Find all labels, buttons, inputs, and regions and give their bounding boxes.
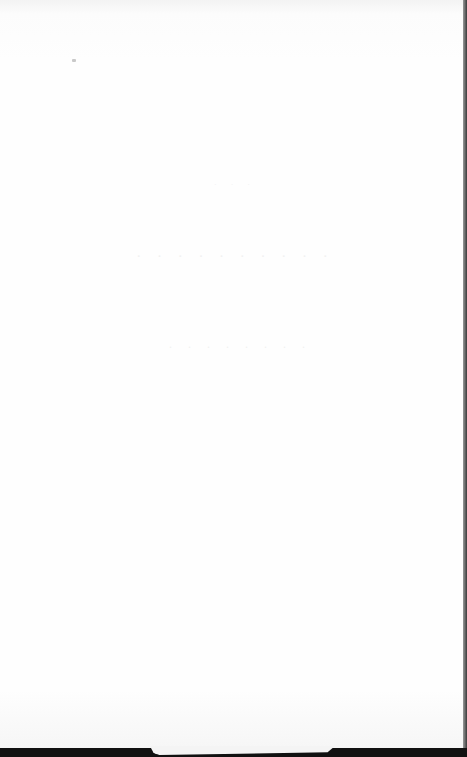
page-right-edge	[463, 0, 467, 748]
ghost-text-top: · · ·	[190, 180, 280, 189]
scanned-page: · · · · · · · · · · · · · · · · · · · · …	[0, 0, 463, 748]
ghost-text-subtitle: · · · · · · · ·	[110, 340, 370, 355]
ink-speck	[72, 59, 76, 62]
ghost-text-title: · · · · · · · · · ·	[70, 248, 400, 265]
